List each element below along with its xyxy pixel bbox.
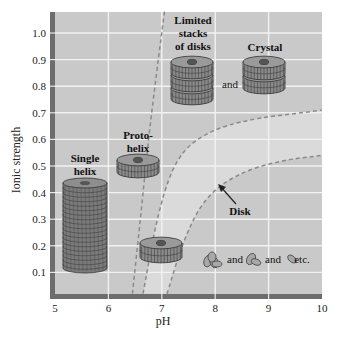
label-and-small-2: and xyxy=(265,253,281,265)
label-limited-2: stacks xyxy=(179,27,208,39)
label-crystal: Crystal xyxy=(248,41,283,53)
x-tick-label: 5 xyxy=(52,302,58,314)
label-disk: Disk xyxy=(229,205,251,217)
x-tick-label: 9 xyxy=(266,302,272,314)
y-tick-label: 0.5 xyxy=(32,160,46,172)
y-axis-bar xyxy=(50,12,55,299)
aggregate-part xyxy=(208,252,216,262)
label-and-crystal: and xyxy=(222,78,238,90)
aggregate-part xyxy=(212,261,222,267)
cylinder-body xyxy=(63,183,107,273)
x-axis-bar xyxy=(50,294,322,299)
y-tick-label: 0.1 xyxy=(32,266,46,278)
x-tick-label: 6 xyxy=(106,302,112,314)
x-tick-label: 10 xyxy=(317,302,329,314)
y-axis-label: Ionic strength xyxy=(9,127,23,193)
limited-stack-glyph-disk xyxy=(171,56,213,79)
label-limited-1: Limited xyxy=(174,14,211,26)
disk-hole xyxy=(133,157,142,162)
label-limited-3: of disks xyxy=(175,40,211,52)
label-single-helix-2: helix xyxy=(74,165,97,177)
label-proto-helix-1: Proto- xyxy=(123,129,153,141)
disk-hole xyxy=(156,240,165,245)
disk-hole xyxy=(187,59,196,64)
disk-glyph-low xyxy=(140,237,182,263)
x-tick-label: 7 xyxy=(159,302,165,314)
single-helix-glyph xyxy=(63,178,107,273)
phase-diagram-chart: 56789100.10.20.30.40.50.60.70.80.91.0 pH… xyxy=(0,0,338,342)
cylinder-hole xyxy=(80,181,90,185)
y-tick-label: 0.4 xyxy=(32,187,46,199)
y-tick-label: 0.8 xyxy=(32,80,46,92)
y-tick-label: 0.7 xyxy=(32,107,46,119)
label-and-small-1: and xyxy=(227,253,243,265)
disk-hole xyxy=(259,59,268,64)
label-etc: etc. xyxy=(294,253,310,265)
y-tick-label: 0.6 xyxy=(32,133,46,145)
label-single-helix-1: Single xyxy=(71,152,100,164)
y-tick-label: 1.0 xyxy=(32,27,46,39)
y-tick-label: 0.3 xyxy=(32,213,46,225)
x-tick-label: 8 xyxy=(212,302,218,314)
x-axis-label: pH xyxy=(156,314,171,328)
crystal-stack-glyph-disk xyxy=(243,56,285,80)
label-proto-helix-2: helix xyxy=(127,142,150,154)
proto-helix-glyph xyxy=(117,154,159,178)
y-tick-label: 0.2 xyxy=(32,240,46,252)
y-tick-label: 0.9 xyxy=(32,54,46,66)
